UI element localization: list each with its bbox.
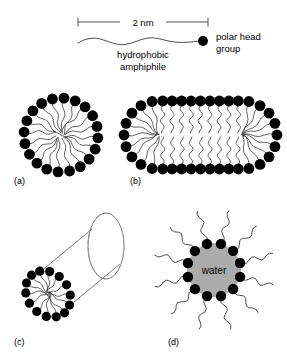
panel-b-head-group (157, 164, 168, 175)
panel-a-head-group (92, 133, 103, 144)
panel-b-tail (199, 137, 203, 165)
panel-a-head-group (70, 95, 81, 106)
panel-a-head-group (92, 121, 103, 132)
panel-a-head-group (84, 154, 95, 165)
panel-c-label: (c) (14, 337, 25, 347)
polar-head-label-line2: group (216, 43, 240, 54)
panel-b-head-group (127, 108, 138, 119)
panel-a-head-group (87, 110, 98, 121)
panel-b-tail (161, 137, 165, 165)
panel-b-head-group (270, 141, 281, 152)
amphiphile-label-line2: amphiphile (120, 61, 166, 72)
panel-b-tail (170, 105, 174, 133)
panel-b-head-group (195, 164, 206, 175)
panel-d-head-group (202, 239, 212, 249)
panel-b-tail (180, 137, 184, 165)
panel-d-head-group (202, 291, 212, 301)
panel-b-tail (198, 105, 202, 133)
panel-b-tail (218, 137, 222, 165)
panel-b-tail (227, 137, 231, 165)
panel-b-tail (179, 105, 183, 133)
panel-b-label: (b) (130, 176, 141, 186)
panel-d-head-group (235, 258, 245, 268)
panel-b-head-group (176, 164, 187, 175)
panel-a-head-group (32, 158, 43, 169)
panel-b-tail (189, 105, 193, 133)
panel-b-tail (236, 137, 240, 165)
panel-c-head-group (65, 300, 74, 309)
panel-d-head-group (228, 246, 238, 256)
legend-amphiphile: hydrophobic amphiphile polar head group (78, 31, 261, 72)
panel-b-head-group (272, 130, 283, 141)
panel-c-head-group (55, 272, 64, 281)
polar-head-group-icon (198, 36, 208, 46)
panel-d-head-group (216, 239, 226, 249)
panel-d-head-group (183, 272, 193, 282)
panel-a-head-group (41, 164, 52, 175)
panel-b-tail (160, 105, 164, 133)
panel-c-head-group (52, 312, 61, 321)
panel-c-head-group (42, 312, 51, 321)
polar-head-label-line1: polar head (216, 31, 261, 42)
panel-d-label: (d) (168, 337, 179, 347)
panel-c-head-group (45, 267, 54, 276)
panel-c-head-group (35, 267, 44, 276)
panel-c-head-group (66, 290, 75, 299)
panel-b-head-group (176, 96, 187, 107)
panel-d-head-group (228, 284, 238, 294)
panel-b-head-group (214, 164, 225, 175)
panel-a-head-group (64, 166, 75, 177)
panel-c-head-group (22, 278, 31, 287)
panel-b-head-group (205, 96, 216, 107)
panel-b-head-group (214, 96, 225, 107)
panel-a-label: (a) (14, 176, 25, 186)
panel-b-tail (208, 105, 212, 133)
panel-a-spherical-micelle: (a) (14, 93, 103, 186)
panel-a-head-group (59, 93, 70, 104)
panel-a-head-group (47, 94, 58, 105)
panel-d-head-group (190, 284, 200, 294)
panel-b-head-group (167, 164, 178, 175)
panel-c-head-group (21, 288, 30, 297)
panel-c-head-group (32, 307, 41, 316)
panel-b-tail (208, 137, 212, 165)
panel-b-tail (217, 105, 221, 133)
cylinder-hidden-arc (88, 213, 106, 279)
panel-b-head-group (233, 164, 244, 175)
panel-b-head-group (167, 96, 178, 107)
panel-c-head-group (60, 308, 69, 317)
panel-b-head-group (136, 100, 147, 111)
panel-c-cylinder: (c) (14, 213, 124, 347)
panel-b-head-group (244, 163, 255, 174)
panel-a-head-group (20, 138, 31, 149)
panel-b-tail (189, 137, 193, 165)
panel-a-head-group (21, 115, 32, 126)
panel-c-head-group (25, 299, 34, 308)
panel-b-head-group (186, 164, 197, 175)
panel-d-reverse-micelle: water (d) (155, 211, 273, 347)
panel-d-head-group (216, 291, 226, 301)
panel-b-head-group (264, 108, 275, 119)
amphiphile-aggregates-figure: 2 nm hydrophobic amphiphile polar head g… (0, 0, 287, 362)
panel-a-head-group (80, 102, 91, 113)
amphiphile-label-line1: hydrophobic (117, 49, 169, 60)
panel-a-head-group (36, 98, 47, 109)
panel-b-rod-micelle: (b) (119, 96, 283, 186)
panel-b-head-group (233, 96, 244, 107)
panel-a-head-group (75, 161, 86, 172)
figure-canvas: 2 nm hydrophobic amphiphile polar head g… (0, 0, 287, 362)
panel-b-head-group (147, 96, 158, 107)
panel-b-head-group (244, 96, 255, 107)
panel-b-head-group (186, 96, 197, 107)
panel-b-tail (227, 105, 231, 133)
panel-a-head-group (28, 106, 39, 117)
panel-b-tail (237, 105, 241, 133)
scale-bar-label: 2 nm (132, 17, 153, 28)
panel-b-head-group (264, 151, 275, 162)
panel-b-head-group (255, 159, 266, 170)
amphiphile-tail-squiggle (78, 38, 198, 45)
panel-b-head-group (157, 96, 168, 107)
panel-b-head-group (121, 118, 132, 129)
panel-a-head-group (90, 144, 101, 155)
panel-d-head-group (235, 272, 245, 282)
